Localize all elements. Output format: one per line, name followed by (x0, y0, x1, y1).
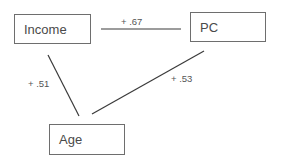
node-age: Age (49, 124, 125, 155)
edge-label-income-age: + .51 (28, 78, 49, 89)
node-age-label: Age (59, 132, 82, 147)
edge-label-income-pc: + .67 (121, 16, 142, 27)
node-pc-label: PC (200, 20, 218, 35)
edge-label-pc-age: + .53 (171, 73, 192, 84)
node-income: Income (14, 14, 91, 44)
edge-income-age (48, 55, 79, 116)
node-income-label: Income (24, 22, 67, 37)
node-pc: PC (190, 12, 266, 42)
diagram-canvas: Income PC Age + .67 + .51 + .53 (0, 0, 282, 164)
